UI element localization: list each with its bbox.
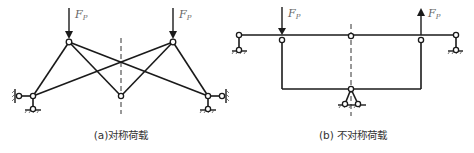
load-arrow-down-icon <box>169 8 177 39</box>
joint-right <box>205 93 210 98</box>
joint-left <box>30 93 35 98</box>
figure-a-symmetric-load: FP FP <box>12 8 229 114</box>
joint-left-b <box>279 37 284 42</box>
load-label-b2: FP <box>427 7 441 21</box>
load-label-a1: FP <box>74 8 88 22</box>
load-label-a2: FP <box>178 8 192 22</box>
member <box>69 42 208 96</box>
load-arrow-up-icon <box>417 8 425 35</box>
right-support-a <box>200 89 229 113</box>
member <box>69 42 121 96</box>
caption-a: (a)对称荷载 <box>94 127 149 142</box>
joint-center-b <box>348 33 353 38</box>
figure-b-antisymmetric-load: FP FP <box>232 7 463 116</box>
diagram-canvas: FP FP <box>0 0 474 153</box>
member <box>33 42 173 96</box>
joint-center-bottom <box>118 93 123 98</box>
caption-b: (b) 不对称荷载 <box>319 127 387 142</box>
joint-right-b <box>418 37 423 42</box>
member <box>121 42 173 96</box>
left-support-a <box>12 89 41 113</box>
joint-top-left <box>66 39 72 45</box>
member <box>173 42 208 96</box>
load-arrow-down-icon <box>65 8 73 39</box>
load-arrow-down-icon <box>278 7 286 35</box>
load-label-b1: FP <box>287 7 301 21</box>
joint-top-right <box>170 39 176 45</box>
member <box>33 42 69 96</box>
